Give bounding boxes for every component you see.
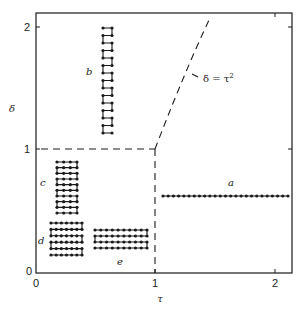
chain-d <box>49 221 83 256</box>
chain-label-e: e <box>117 256 123 267</box>
chain-label-c: c <box>40 177 46 188</box>
y-tick-1: 1 <box>24 143 30 155</box>
phase-diagram: 2 1 0 0 1 2 δ τ δ = τ2 a b c d e <box>0 0 300 312</box>
chain-label-b: b <box>86 66 92 77</box>
plot-frame <box>36 13 292 273</box>
x-tick-0: 0 <box>33 277 39 289</box>
axis-ticks <box>36 13 292 273</box>
x-axis-label: τ <box>157 293 163 304</box>
y-tick-0: 0 <box>26 265 32 277</box>
chain-label-d: d <box>38 235 44 246</box>
chain-c <box>55 160 78 214</box>
y-tick-2: 2 <box>24 21 30 33</box>
chain-b <box>101 26 113 134</box>
chain-label-a: a <box>228 177 234 188</box>
x-tick-2: 2 <box>272 277 278 289</box>
x-tick-1: 1 <box>152 277 158 289</box>
y-axis-label: δ <box>9 103 15 114</box>
boundary-parabola <box>155 18 210 149</box>
curve-label: δ = τ2 <box>203 72 234 84</box>
chain-a <box>161 194 289 197</box>
curve-label-leader <box>192 74 198 77</box>
chain-e <box>93 228 148 249</box>
